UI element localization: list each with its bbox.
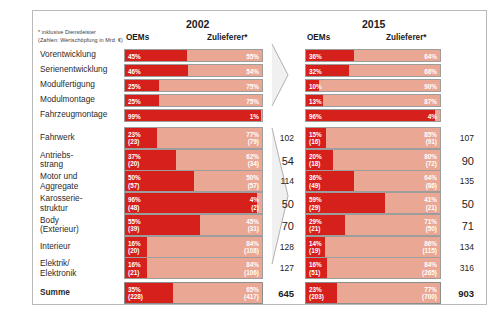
bar-label-supplier: 55% [246, 53, 259, 60]
row-label-top-1: Serienentwicklung [40, 65, 128, 75]
stacked-bar: 59%(29)41%(21) [305, 192, 441, 214]
col-header-supplier-2002: Zulieferer* [207, 33, 248, 42]
row-label-summe: Summe [40, 288, 128, 298]
bar-label-supplier: 68% [424, 68, 437, 75]
bar-segment-oem [125, 110, 261, 121]
bar-label-supplier: 77%(700) [422, 286, 437, 301]
col-header-oem-2002: OEMs [126, 33, 149, 42]
row-total-l-3: 50 [266, 198, 294, 210]
row-label-top-3: Modulmontage [40, 95, 128, 105]
row-label-bot-3: Karosserie-struktur [40, 194, 128, 213]
bar-label-supplier: 50%(57) [246, 174, 259, 189]
stacked-bar: 96%(48)4%(2) [124, 192, 263, 214]
bar-label-supplier: 85%(91) [424, 131, 437, 146]
bar-label-oem: 16%(20) [128, 240, 141, 255]
bar-label-supplier: 87% [424, 98, 437, 105]
bar-label-supplier: 64% [424, 53, 437, 60]
row-total-r-3: 50 [446, 198, 474, 210]
stacked-bar: 55%(39)45%(31) [124, 214, 263, 236]
bar-label-oem: 36%(49) [309, 174, 322, 189]
chart-page: * inklusive Dienstleister (Zahlen: Werts… [0, 0, 497, 329]
arrow-right-icon-top [270, 42, 290, 108]
bar-label-oem: 32% [309, 68, 322, 75]
stacked-bar: 45%55% [124, 49, 263, 62]
stacked-bar: 46%54% [124, 64, 263, 77]
row-total-l-4: 70 [266, 220, 294, 232]
stacked-bar: 32%68% [305, 64, 441, 77]
bar-label-supplier: 71%(50) [424, 218, 437, 233]
stacked-bar: 99%1% [124, 109, 263, 122]
bar-label-oem: 16%(51) [309, 261, 322, 276]
stacked-bar: 96%4% [305, 109, 441, 122]
row-total-l-1: 54 [266, 155, 294, 167]
row-label-bot-6: Elektrik/Elektronik [40, 259, 128, 278]
stacked-bar: 16%(21)84%(106) [124, 257, 263, 279]
stacked-bar: 13%87% [305, 94, 441, 107]
bar-label-supplier: 4%(2) [250, 196, 259, 211]
stacked-bar: 14%(19)86%(115) [305, 236, 441, 258]
stacked-bar: 50%(57)50%(57) [124, 170, 263, 192]
stacked-bar: 16%(20)84%(108) [124, 236, 263, 258]
row-label-bot-1: Antriebs-strang [40, 151, 128, 170]
bar-label-supplier: 77%(79) [246, 131, 259, 146]
bar-label-oem: 25% [128, 98, 141, 105]
bar-label-oem: 36% [309, 53, 322, 60]
row-total-l-6: 127 [266, 263, 294, 273]
row-total-r-0: 107 [446, 133, 474, 143]
stacked-bar: 37%(20)62%(34) [124, 149, 263, 171]
stacked-bar: 29%(21)71%(50) [305, 214, 441, 236]
bar-label-oem: 96%(48) [128, 196, 141, 211]
bar-label-oem: 16%(21) [128, 261, 141, 276]
bar-label-oem: 23%(203) [309, 286, 324, 301]
row-label-top-4: Fahrzeugmontage [40, 110, 128, 120]
row-label-top-0: Vorentwicklung [40, 50, 128, 60]
stacked-bar: 25%75% [124, 94, 263, 107]
col-header-oem-2015: OEMs [307, 33, 330, 42]
bar-label-supplier: 80%(72) [424, 153, 437, 168]
bar-label-supplier: 1% [250, 113, 259, 120]
bar-label-supplier: 84%(108) [244, 240, 259, 255]
bar-label-supplier: 84%(265) [422, 261, 437, 276]
row-label-bot-2: Motor undAggregate [40, 172, 128, 191]
bar-label-oem: 46% [128, 68, 141, 75]
bar-label-supplier: 86%(115) [422, 240, 437, 255]
bar-label-supplier: 4% [428, 113, 437, 120]
row-total-l-2: 114 [266, 176, 294, 186]
bar-label-supplier: 75% [246, 98, 259, 105]
row-label-top-2: Modulfertigung [40, 80, 128, 90]
bar-label-supplier: 65%(417) [244, 286, 259, 301]
stacked-bar: 25%75% [124, 79, 263, 92]
row-total-l-5: 128 [266, 242, 294, 252]
stacked-bar: 10%90% [305, 79, 441, 92]
row-total-r-6: 316 [446, 263, 474, 273]
stacked-bar: 23%(23)77%(79) [124, 127, 263, 149]
stacked-bar: 35%(228)65%(417) [124, 282, 263, 304]
bar-label-oem: 99% [128, 113, 141, 120]
bar-label-oem: 15%(16) [309, 131, 322, 146]
bar-label-oem: 37%(20) [128, 153, 141, 168]
bar-label-oem: 29%(21) [309, 218, 322, 233]
bar-label-oem: 14%(19) [309, 240, 322, 255]
bar-label-supplier: 84%(106) [244, 261, 259, 276]
bar-label-supplier: 62%(34) [246, 153, 259, 168]
bar-label-oem: 35%(228) [128, 286, 143, 301]
bar-label-oem: 10% [309, 83, 322, 90]
bar-label-oem: 50%(57) [128, 174, 141, 189]
col-header-supplier-2015: Zulieferer* [386, 33, 427, 42]
stacked-bar: 16%(51)84%(265) [305, 257, 441, 279]
bar-label-oem: 45% [128, 53, 141, 60]
row-total-r-1: 90 [446, 155, 474, 167]
bar-label-oem: 20%(18) [309, 153, 322, 168]
bar-label-supplier: 41%(21) [424, 196, 437, 211]
bar-label-supplier: 64%(86) [424, 174, 437, 189]
bar-label-oem: 25% [128, 83, 141, 90]
row-total-r-4: 71 [446, 220, 474, 232]
bar-label-oem: 23%(23) [128, 131, 141, 146]
bar-segment-oem [125, 193, 257, 213]
bar-label-supplier: 75% [246, 83, 259, 90]
bar-label-supplier: 54% [246, 68, 259, 75]
row-total-summe-r: 903 [446, 288, 474, 299]
stacked-bar: 20%(18)80%(72) [305, 149, 441, 171]
stacked-bar: 23%(203)77%(700) [305, 282, 441, 304]
bar-label-supplier: 90% [424, 83, 437, 90]
